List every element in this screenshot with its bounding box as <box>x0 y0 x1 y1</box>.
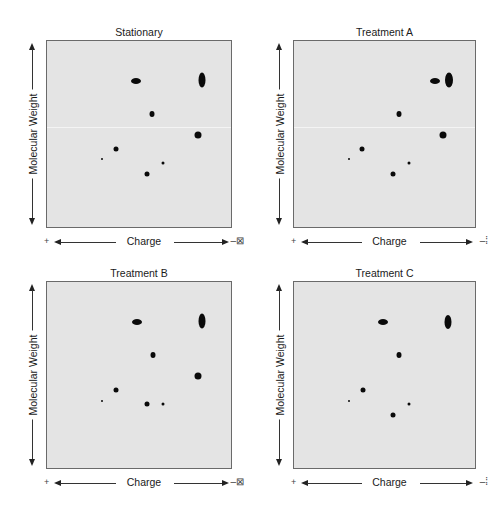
protein-spot <box>430 78 440 84</box>
y-axis-label: Molecular Weight <box>27 331 39 420</box>
y-axis-molecular-weight: Molecular Weight <box>273 284 287 466</box>
protein-spot <box>150 111 155 117</box>
x-axis-label: Charge <box>127 235 161 247</box>
y-axis-molecular-weight: Molecular Weight <box>26 43 40 225</box>
positive-symbol: + <box>291 477 296 487</box>
protein-spot <box>445 315 452 329</box>
arrow-right-icon <box>222 480 229 486</box>
protein-spot <box>162 162 165 165</box>
protein-spot <box>397 111 402 117</box>
panel-title: Treatment B <box>46 267 232 279</box>
arrow-down-icon <box>29 218 35 225</box>
protein-spot <box>195 132 202 139</box>
panel-title: Stationary <box>46 26 232 38</box>
axis-line-right <box>420 242 467 243</box>
negative-symbol: –⊠ <box>230 235 244 246</box>
protein-spot <box>151 352 156 358</box>
axis-line-right <box>174 242 222 243</box>
arrow-right-icon <box>466 239 473 245</box>
protein-spot <box>199 314 206 329</box>
axis-line-left <box>60 483 116 484</box>
protein-spot <box>408 403 411 406</box>
arrow-right-icon <box>466 480 473 486</box>
positive-symbol: + <box>44 236 49 246</box>
scan-streak <box>294 127 475 128</box>
protein-spot <box>101 158 103 160</box>
protein-spot <box>408 162 411 165</box>
arrow-down-icon <box>29 459 35 466</box>
x-axis-charge: +Charge–⁞ <box>291 235 488 249</box>
protein-spot <box>397 352 402 358</box>
protein-spot <box>348 400 350 402</box>
protein-spot <box>131 78 141 84</box>
protein-spot <box>348 158 350 160</box>
axis-line-left <box>307 242 362 243</box>
axis-line-right <box>174 483 222 484</box>
positive-symbol: + <box>44 477 49 487</box>
panel-title: Treatment C <box>293 267 476 279</box>
protein-spot <box>360 147 365 152</box>
gel-image <box>293 40 476 228</box>
y-axis-molecular-weight: Molecular Weight <box>273 43 287 225</box>
protein-spot <box>162 403 165 406</box>
protein-spot <box>445 73 453 88</box>
protein-spot <box>199 73 206 88</box>
protein-spot <box>195 373 202 380</box>
negative-symbol: –⊠ <box>230 476 244 487</box>
protein-spot <box>440 132 447 139</box>
arrow-down-icon <box>276 218 282 225</box>
protein-spot <box>132 319 142 325</box>
y-axis-label: Molecular Weight <box>27 90 39 179</box>
x-axis-label: Charge <box>127 476 161 488</box>
x-axis-charge: +Charge–⊠ <box>44 235 244 249</box>
x-axis-charge: +Charge–⊠ <box>44 476 244 490</box>
protein-spot <box>101 400 103 402</box>
arrow-right-icon <box>222 239 229 245</box>
x-axis-label: Charge <box>372 476 406 488</box>
protein-spot <box>378 319 388 325</box>
protein-spot <box>114 388 119 393</box>
x-axis-label: Charge <box>372 235 406 247</box>
y-axis-label: Molecular Weight <box>274 331 286 420</box>
protein-spot <box>145 172 150 177</box>
gel-image <box>46 40 232 228</box>
gel-image <box>46 281 232 469</box>
y-axis-molecular-weight: Molecular Weight <box>26 284 40 466</box>
scan-streak <box>47 127 231 128</box>
negative-symbol: –⁞ <box>480 476 488 487</box>
protein-spot <box>391 172 396 177</box>
arrow-down-icon <box>276 459 282 466</box>
y-axis-label: Molecular Weight <box>274 90 286 179</box>
negative-symbol: –⁞ <box>480 235 488 246</box>
protein-spot <box>114 147 119 152</box>
axis-line-right <box>420 483 467 484</box>
positive-symbol: + <box>291 236 296 246</box>
axis-line-left <box>60 242 116 243</box>
x-axis-charge: +Charge–⁞ <box>291 476 488 490</box>
axis-line-left <box>307 483 362 484</box>
gel-image <box>293 281 476 469</box>
protein-spot <box>145 402 150 407</box>
protein-spot <box>391 413 396 418</box>
panel-title: Treatment A <box>293 26 476 38</box>
protein-spot <box>361 388 366 393</box>
